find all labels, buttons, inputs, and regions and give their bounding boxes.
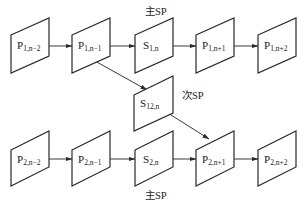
sp-frame-diagram: P1,n−2 P1,n−1 S1,n P1,n+1 P1,n+2 S12,n P… — [0, 0, 300, 202]
frame-s12-n: S12,n — [134, 76, 173, 131]
frame-p1-n-plus-1: P1,n+1 — [196, 18, 234, 73]
frame-p1-n-plus-2: P1,n+2 — [258, 18, 296, 73]
frame-s2-n: S2,n — [135, 131, 173, 186]
label-bottom-primary-sp: 主SP — [145, 190, 167, 201]
frame-p1-n-minus-1: P1,n−1 — [72, 18, 110, 73]
frame-s1-n: S1,n — [135, 18, 173, 73]
frame-p2-n-plus-1: P2,n+1 — [196, 131, 234, 186]
frame-p2-n-minus-2: P2,n−2 — [11, 131, 49, 186]
frame-p2-n-plus-2: P2,n+2 — [258, 131, 296, 186]
frame-p2-n-minus-1: P2,n−1 — [72, 131, 110, 186]
frame-p1-n-minus-2: P1,n−2 — [11, 18, 49, 73]
label-top-primary-sp: 主SP — [145, 6, 167, 17]
label-secondary-sp: 次SP — [182, 89, 204, 101]
